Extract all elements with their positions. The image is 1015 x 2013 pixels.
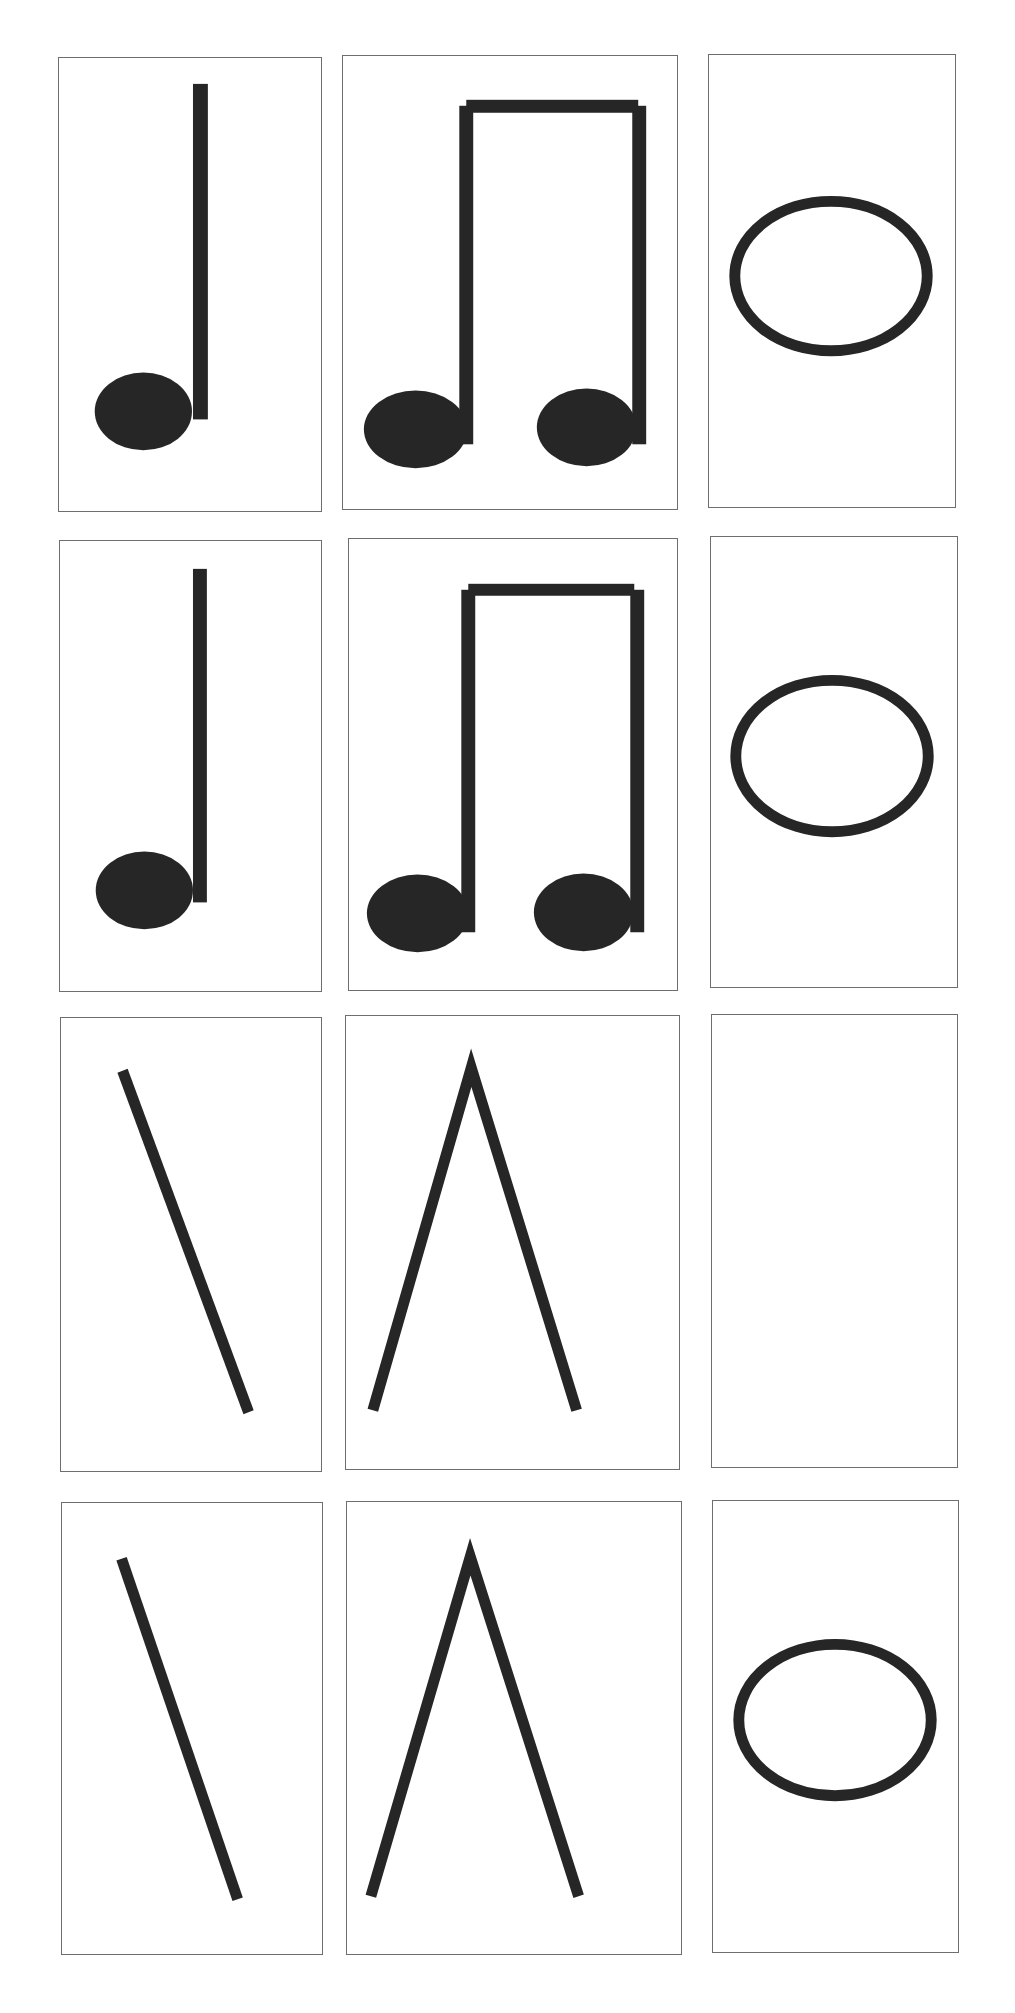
quarter-note-icon xyxy=(60,541,321,991)
whole-note-icon xyxy=(711,537,957,987)
stick-eighths-icon xyxy=(346,1016,679,1469)
card-beamed-eighth-notes xyxy=(342,55,678,510)
card-beamed-eighth-notes xyxy=(348,538,678,991)
card-stick-quarter xyxy=(60,1017,322,1472)
quarter-note-icon xyxy=(59,58,321,511)
card-quarter-note xyxy=(59,540,322,992)
stick-quarter-icon xyxy=(61,1018,321,1471)
whole-note-icon xyxy=(713,1501,958,1952)
page-title xyxy=(0,0,1015,14)
stick-quarter-icon xyxy=(62,1503,322,1954)
beamed-eighth-notes-icon xyxy=(343,56,677,509)
stick-eighths-icon xyxy=(347,1502,681,1954)
card-stick-eighths xyxy=(346,1501,682,1955)
whole-note-icon xyxy=(709,55,955,507)
card-stick-eighths xyxy=(345,1015,680,1470)
card-whole-note xyxy=(710,536,958,988)
beamed-eighth-notes-icon xyxy=(349,539,677,990)
card-blank xyxy=(711,1014,958,1468)
card-whole-note xyxy=(708,54,956,508)
card-stick-quarter xyxy=(61,1502,323,1955)
card-quarter-note xyxy=(58,57,322,512)
card-whole-note xyxy=(712,1500,959,1953)
